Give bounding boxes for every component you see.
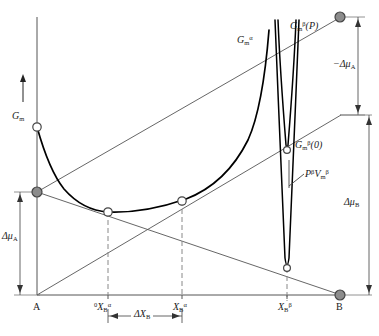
marker-beta-p-minimum-point	[284, 147, 291, 154]
delta-mu-a-main: Δμ	[2, 230, 13, 241]
delta-mu-a-neg-sub: A	[351, 63, 356, 70]
tick-label-zero-x-b-alpha: 0XBα	[94, 301, 111, 313]
tick-label-x-b-alpha: XBα	[173, 301, 187, 313]
delta-x-b-main: ΔX	[134, 308, 146, 319]
tick2-sup: β	[288, 301, 291, 308]
tick-label-x-b-beta: XBβ	[278, 301, 292, 313]
g-m-beta-zero-label: Gmβ(0)	[295, 139, 322, 151]
beta-p-phase-curve	[278, 20, 296, 148]
gibbs-energy-composition-figure: Gm Gmα Gmβ(P) Gmβ(0) PβVmβ −ΔμA ΔμB ΔμA …	[0, 0, 379, 336]
delta-mu-a-label: ΔμA	[2, 230, 18, 242]
v-m-beta-sup: β	[326, 168, 329, 175]
delta-x-b-label: ΔXB	[131, 308, 153, 320]
g-m-beta-zero-suffix: (0)	[311, 139, 323, 150]
alpha-phase-curve	[37, 30, 269, 212]
descending-tangent-line	[37, 192, 341, 295]
x-endpoint-b-label: B	[336, 301, 343, 312]
marker-beta-zero-minimum-point	[284, 265, 291, 272]
marker-zero-x-b-alpha-point	[104, 208, 112, 216]
g-m-alpha-sup: α	[249, 34, 252, 41]
marker-alpha-curve-left-endpoint	[33, 123, 41, 131]
marker-b-upper-point	[335, 12, 345, 22]
g-m-beta-p-suffix: (P)	[306, 20, 319, 31]
delta-mu-a-negative-label: −ΔμA	[333, 58, 355, 70]
delta-mu-b-sub: B	[355, 201, 359, 208]
delta-mu-b-main: Δμ	[344, 196, 355, 207]
y-axis-label: Gm	[12, 110, 24, 122]
delta-mu-b-label: ΔμB	[344, 196, 359, 208]
delta-mu-a-neg-main: −Δμ	[333, 58, 351, 69]
leader-line-p-beta-v-m	[289, 174, 304, 186]
g-m-alpha-label: Gmα	[237, 34, 253, 46]
y-axis-arrow-icon	[20, 74, 26, 102]
marker-b-lower-point	[335, 290, 345, 300]
measure-delta-mu-a	[14, 192, 40, 295]
x-endpoint-a-label: A	[33, 301, 40, 312]
delta-mu-a-sub: A	[13, 235, 18, 242]
delta-x-b-sub: B	[146, 313, 150, 320]
tick1-sup: α	[183, 301, 186, 308]
y-axis-label-sub: m	[19, 115, 24, 122]
marker-mu-a-upper-point	[32, 187, 42, 197]
g-m-beta-p-label: Gmβ(P)	[290, 20, 318, 32]
tick0-sup: α	[108, 301, 111, 308]
marker-x-b-alpha-point	[178, 197, 186, 205]
p-beta-v-m-beta-label: PβVmβ	[305, 168, 329, 180]
